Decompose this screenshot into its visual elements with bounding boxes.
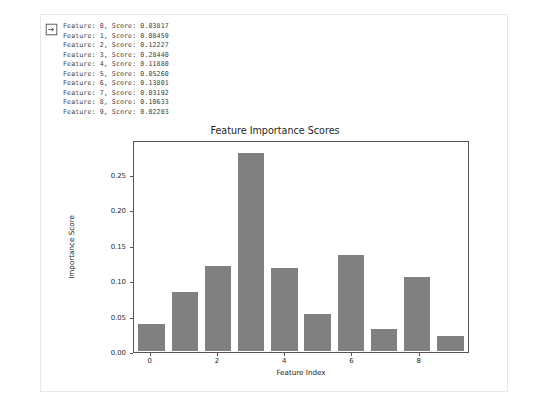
stdout-output-block: Feature: 0, Score: 0.03817Feature: 1, Sc… xyxy=(41,19,509,123)
stdout-line: Feature: 1, Score: 0.08459 xyxy=(63,32,169,42)
y-tick-mark xyxy=(130,247,133,248)
bar-slot xyxy=(135,143,168,351)
bar xyxy=(371,329,398,351)
stdout-line: Feature: 3, Score: 0.28440 xyxy=(63,51,169,61)
output-arrow-icon xyxy=(45,23,58,36)
bar-slot xyxy=(367,143,400,351)
bar-slot xyxy=(268,143,301,351)
y-tick-label: 0.05 xyxy=(49,314,126,322)
stdout-line: Feature: 0, Score: 0.03817 xyxy=(63,22,169,32)
y-tick-label: 0.25 xyxy=(49,172,126,180)
x-tick-mark xyxy=(284,353,285,356)
x-axis-label: Feature Index xyxy=(133,368,469,377)
x-tick-mark xyxy=(419,353,420,356)
bar xyxy=(304,314,331,351)
stdout-line: Feature: 4, Score: 0.11880 xyxy=(63,60,169,70)
y-tick-label: 0.10 xyxy=(49,278,126,286)
y-tick-mark xyxy=(130,211,133,212)
y-tick-mark xyxy=(130,318,133,319)
bar xyxy=(238,153,265,351)
stdout-line: Feature: 9, Score: 0.02203 xyxy=(63,108,169,118)
x-tick-label: 0 xyxy=(148,357,152,365)
bar xyxy=(138,324,165,351)
stdout-line: Feature: 2, Score: 0.12227 xyxy=(63,41,169,51)
x-tick-label: 2 xyxy=(215,357,219,365)
bar xyxy=(437,336,464,351)
bar xyxy=(205,266,232,351)
bar-slot xyxy=(201,143,234,351)
bar xyxy=(271,268,298,351)
x-tick-mark xyxy=(150,353,151,356)
stdout-line: Feature: 8, Score: 0.10633 xyxy=(63,98,169,108)
x-tick-label: 4 xyxy=(282,357,286,365)
bars-area xyxy=(135,143,467,351)
y-tick-mark xyxy=(130,353,133,354)
plot-frame xyxy=(133,141,469,353)
y-tick-mark xyxy=(130,176,133,177)
x-tick-mark xyxy=(217,353,218,356)
x-tick-mark xyxy=(351,353,352,356)
x-tick-label: 8 xyxy=(416,357,420,365)
bar xyxy=(404,277,431,351)
bar xyxy=(338,255,365,351)
notebook-output-cell: Feature: 0, Score: 0.03817Feature: 1, Sc… xyxy=(40,14,508,392)
bar-slot xyxy=(434,143,467,351)
bar-slot xyxy=(235,143,268,351)
y-tick-mark xyxy=(130,282,133,283)
matplotlib-figure: Feature Importance Scores Importance Sco… xyxy=(49,119,501,387)
y-tick-label: 0.00 xyxy=(49,349,126,357)
bar-slot xyxy=(168,143,201,351)
x-tick-label: 6 xyxy=(349,357,353,365)
chart-title: Feature Importance Scores xyxy=(49,125,501,136)
bar xyxy=(172,292,199,351)
bar-slot xyxy=(301,143,334,351)
bar-slot xyxy=(401,143,434,351)
y-tick-label: 0.20 xyxy=(49,207,126,215)
stdout-text: Feature: 0, Score: 0.03817Feature: 1, Sc… xyxy=(63,22,169,117)
stdout-line: Feature: 6, Score: 0.13801 xyxy=(63,79,169,89)
y-tick-label: 0.15 xyxy=(49,243,126,251)
bar-slot xyxy=(334,143,367,351)
stdout-line: Feature: 7, Score: 0.03192 xyxy=(63,89,169,99)
stdout-line: Feature: 5, Score: 0.05260 xyxy=(63,70,169,80)
